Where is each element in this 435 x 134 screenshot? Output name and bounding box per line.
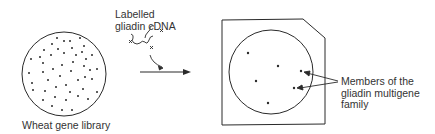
labelled-cdna-probe xyxy=(129,26,163,70)
hybridised-spots xyxy=(247,52,302,104)
probe-label: Labelled gliadin cDNA xyxy=(115,8,176,32)
colony-dots xyxy=(28,37,98,111)
wheat-gene-library-plate xyxy=(22,32,106,116)
diagram-canvas xyxy=(0,0,435,134)
members-label: Members of the gliadin multigene family xyxy=(341,76,420,111)
library-label: Wheat gene library xyxy=(22,120,110,132)
process-arrow xyxy=(140,69,191,75)
filter-membrane xyxy=(222,19,338,125)
